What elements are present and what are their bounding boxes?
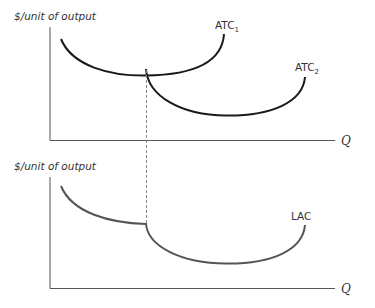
cost-curves-diagram: $/unit of output Q ATC1 ATC2 $/unit of o… <box>0 0 375 308</box>
atc1-curve <box>61 34 224 76</box>
bottom-x-axis-label: Q <box>341 282 351 296</box>
lac-label: LAC <box>291 210 311 222</box>
bottom-y-axis-label: $/unit of output <box>14 160 97 172</box>
atc2-curve <box>146 69 305 116</box>
top-panel: $/unit of output Q ATC1 ATC2 <box>14 10 351 148</box>
lac-curve <box>61 186 305 264</box>
top-x-axis-label: Q <box>341 134 351 148</box>
bottom-panel: $/unit of output Q LAC <box>14 160 351 296</box>
top-y-axis-label: $/unit of output <box>14 10 97 22</box>
atc1-label: ATC1 <box>215 19 239 34</box>
atc2-label: ATC2 <box>295 61 319 76</box>
